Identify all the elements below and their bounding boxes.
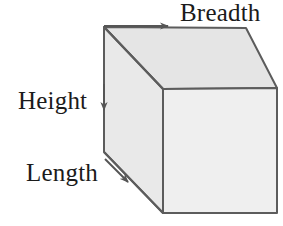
breadth-label: Breadth bbox=[180, 0, 261, 25]
length-label: Length bbox=[26, 160, 98, 185]
height-label: Height bbox=[18, 88, 87, 113]
cuboid-body bbox=[104, 27, 277, 213]
cuboid-dimensions-diagram: Breadth Height Length bbox=[0, 0, 283, 226]
front-face bbox=[163, 88, 277, 213]
